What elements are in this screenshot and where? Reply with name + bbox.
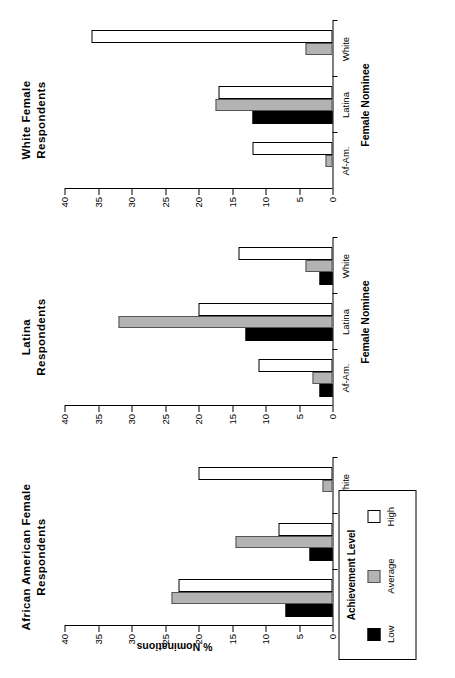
y-axis-tick: [98, 626, 99, 632]
x-axis-tick-label: White: [339, 37, 350, 61]
bar-white-average: [305, 260, 332, 273]
x-axis-tick-label: Af-Am.: [339, 146, 350, 175]
bar-latina-average: [118, 316, 332, 329]
y-axis-tick-label: 0: [327, 634, 338, 639]
bar-white-high: [238, 247, 332, 260]
y-axis-tick: [198, 189, 199, 195]
x-axis-tick: [332, 569, 337, 570]
x-axis-tick: [332, 293, 337, 294]
panel-title-line-2: Respondents: [33, 17, 48, 223]
bar-white-low: [319, 272, 332, 285]
panel-title-line-1: African American Female: [18, 454, 33, 660]
x-axis-tick: [332, 349, 337, 350]
legend-label-high: High: [384, 507, 395, 527]
legend-title: Achievement Level: [345, 491, 356, 659]
y-axis-tick-label: 0: [327, 197, 338, 202]
legend-item-average[interactable]: Average: [367, 558, 395, 593]
y-axis-tick-label: 40: [59, 634, 70, 645]
y-axis-tick: [64, 406, 65, 412]
panel-container: African American Female Respondents % No…: [0, 0, 455, 678]
x-axis-tick: [332, 132, 337, 133]
y-axis-tick-label: 25: [159, 414, 170, 425]
legend-items: Low Average High: [367, 491, 395, 659]
bar-white-average: [305, 43, 332, 56]
y-axis-tick-label: 20: [193, 197, 204, 208]
y-axis-tick-label: 10: [260, 197, 271, 208]
y-axis-tick: [332, 406, 333, 412]
y-axis-tick-label: 30: [126, 634, 137, 645]
y-axis-tick-label: 5: [293, 414, 304, 419]
x-axis-title: Female Nominee: [358, 21, 370, 189]
y-axis-tick-label: 35: [92, 414, 103, 425]
bar-white-high: [91, 30, 332, 43]
bar-afam-low: [319, 384, 332, 397]
y-axis-tick: [232, 406, 233, 412]
plot-area: Af-Am.LatinaWhite: [64, 238, 332, 406]
bar-white-average: [322, 480, 332, 493]
x-axis-tick: [332, 20, 337, 21]
y-axis-tick-label: 35: [92, 634, 103, 645]
y-axis-tick-label: 0: [327, 414, 338, 419]
y-axis-tick-label: 25: [159, 197, 170, 208]
x-axis-tick: [332, 457, 337, 458]
x-axis-tick-label: White: [339, 254, 350, 278]
y-axis-tick-label: 40: [59, 414, 70, 425]
bar-latina-average: [235, 536, 332, 549]
y-axis-tick: [198, 626, 199, 632]
y-axis-tick-label: 15: [226, 197, 237, 208]
x-axis-tick: [332, 513, 337, 514]
y-axis-tick: [64, 626, 65, 632]
bar-afam-high: [258, 359, 332, 372]
y-axis-tick-label: 15: [226, 414, 237, 425]
y-axis-tick: [131, 189, 132, 195]
x-axis-title: Female Nominee: [358, 238, 370, 406]
legend-label-low: Low: [384, 626, 395, 643]
bar-afam-low: [285, 604, 332, 617]
y-axis-tick: [165, 406, 166, 412]
bar-afam-average: [325, 155, 332, 168]
y-axis-tick-label: 40: [59, 197, 70, 208]
y-axis-tick: [131, 626, 132, 632]
figure-root: African American Female Respondents % No…: [0, 0, 455, 678]
y-axis-tick-label: 10: [260, 414, 271, 425]
legend-swatch-average-icon: [367, 570, 380, 583]
y-axis-tick-label: 5: [293, 634, 304, 639]
bar-latina-high: [278, 523, 332, 536]
y-axis-tick: [64, 189, 65, 195]
y-axis-tick: [131, 406, 132, 412]
bar-latina-high: [218, 86, 332, 99]
panel-title-line-2: Respondents: [33, 454, 48, 660]
plot-area: Af-Am.LatinaWhite: [64, 458, 332, 626]
y-axis-tick-label: 20: [193, 634, 204, 645]
y-axis-tick: [265, 626, 266, 632]
y-axis-tick: [98, 189, 99, 195]
bar-latina-low: [252, 111, 332, 124]
plot-area: Af-Am.LatinaWhite: [64, 21, 332, 189]
y-axis-tick-label: 20: [193, 414, 204, 425]
panel-title: African American Female Respondents: [18, 454, 48, 660]
legend-box: Achievement Level Low Average High: [338, 490, 416, 660]
panel-title: White Female Respondents: [18, 17, 48, 223]
x-axis-tick: [332, 76, 337, 77]
y-axis-tick: [332, 189, 333, 195]
bar-latina-low: [309, 548, 332, 561]
panel-latina-respondents: Latina Respondents 0510152025303540 Af-A…: [18, 234, 410, 440]
legend-item-low[interactable]: Low: [367, 626, 395, 643]
y-axis-tick-label: 5: [293, 197, 304, 202]
bar-latina-high: [198, 303, 332, 316]
bar-afam-high: [252, 142, 332, 155]
y-axis-tick-label: 35: [92, 197, 103, 208]
y-axis-tick: [232, 189, 233, 195]
y-axis-tick: [165, 189, 166, 195]
y-axis-tick-label: 30: [126, 414, 137, 425]
bar-afam-high: [178, 579, 332, 592]
bar-afam-average: [171, 592, 332, 605]
panel-title-line-1: Latina: [18, 234, 33, 440]
y-axis-tick: [332, 626, 333, 632]
y-axis-tick: [198, 406, 199, 412]
bar-latina-average: [215, 99, 332, 112]
x-axis-tick-label: Af-Am.: [339, 363, 350, 392]
legend-item-high[interactable]: High: [367, 507, 395, 527]
legend-label-average: Average: [384, 558, 395, 593]
legend-swatch-high-icon: [367, 510, 380, 523]
